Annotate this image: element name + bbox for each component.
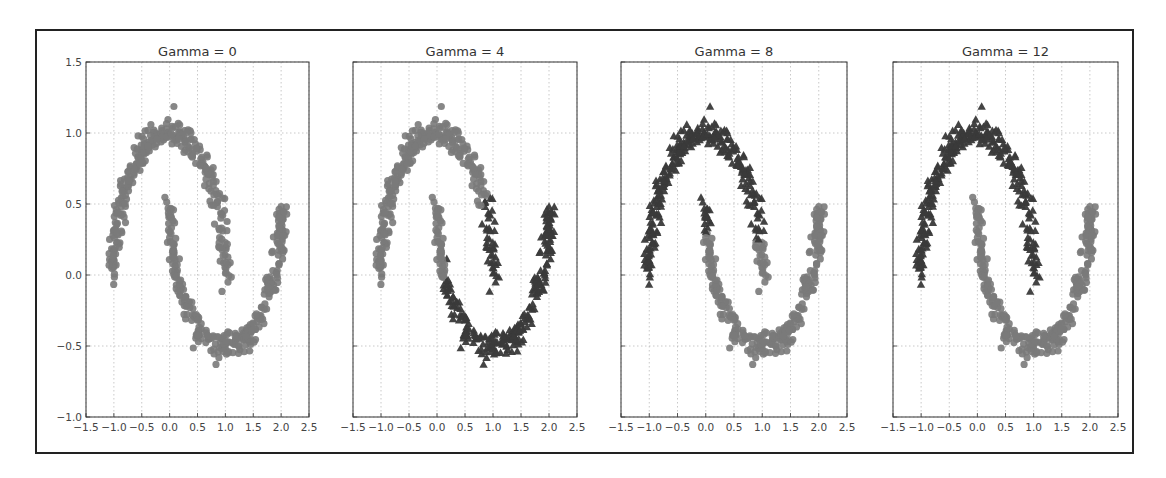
figure-canvas: Gamma = 0−1.5−1.0−0.50.00.51.01.52.02.5−… (0, 0, 1166, 478)
subplot-3: Gamma = 8−1.5−1.0−0.50.00.51.01.52.02.5 (608, 44, 855, 433)
x-tick-label: 1.5 (782, 421, 799, 433)
x-tick-label: 2.0 (273, 421, 290, 433)
scatter-points (373, 103, 559, 368)
subplot-title: Gamma = 12 (962, 44, 1049, 59)
x-tick-label: −0.5 (665, 421, 691, 433)
x-tick-label: 2.5 (839, 421, 856, 433)
x-tick-label: 1.0 (485, 421, 502, 433)
y-tick-label: −1.0 (57, 411, 83, 423)
x-tick-label: 2.5 (1110, 421, 1127, 433)
x-tick-label: −1.5 (880, 421, 906, 433)
x-tick-label: 2.0 (1082, 421, 1099, 433)
subplot-1: Gamma = 0−1.5−1.0−0.50.00.51.01.52.02.5−… (57, 44, 318, 433)
x-tick-label: −1.0 (637, 421, 663, 433)
x-tick-label: 1.0 (754, 421, 771, 433)
x-tick-label: 0.0 (161, 421, 178, 433)
scatter-points (106, 103, 291, 368)
subplot-title: Gamma = 4 (426, 44, 505, 59)
x-tick-label: 2.0 (810, 421, 827, 433)
x-tick-label: 0.0 (969, 421, 986, 433)
x-tick-label: 1.5 (245, 421, 262, 433)
x-tick-label: 1.0 (217, 421, 234, 433)
y-tick-label: 0.0 (65, 269, 82, 281)
y-tick-label: 1.5 (65, 56, 82, 68)
x-tick-label: 1.5 (513, 421, 530, 433)
x-tick-label: −0.5 (937, 421, 963, 433)
x-tick-label: −1.0 (908, 421, 934, 433)
x-tick-label: 2.0 (541, 421, 558, 433)
x-tick-label: 2.5 (301, 421, 318, 433)
x-tick-label: 0.0 (697, 421, 714, 433)
x-tick-label: 1.0 (1025, 421, 1042, 433)
x-tick-label: −1.0 (368, 421, 394, 433)
x-tick-label: 2.5 (569, 421, 586, 433)
subplot-title: Gamma = 0 (158, 44, 237, 59)
x-tick-label: 0.0 (429, 421, 446, 433)
x-tick-label: −1.5 (608, 421, 634, 433)
x-tick-label: 1.5 (1053, 421, 1070, 433)
y-tick-label: 0.5 (65, 198, 82, 210)
y-tick-label: −0.5 (57, 340, 83, 352)
y-tick-label: 1.0 (65, 127, 82, 139)
subplot-title: Gamma = 8 (695, 44, 774, 59)
x-tick-label: 0.5 (726, 421, 743, 433)
x-tick-label: −1.0 (101, 421, 127, 433)
x-tick-label: 0.5 (457, 421, 474, 433)
x-tick-label: −0.5 (129, 421, 155, 433)
x-tick-label: −1.5 (340, 421, 366, 433)
x-tick-label: 0.5 (189, 421, 206, 433)
subplot-2: Gamma = 4−1.5−1.0−0.50.00.51.01.52.02.5 (340, 44, 585, 433)
x-tick-label: 0.5 (997, 421, 1014, 433)
subplot-4: Gamma = 12−1.5−1.0−0.50.00.51.01.52.02.5 (880, 44, 1126, 433)
x-tick-label: −0.5 (396, 421, 422, 433)
